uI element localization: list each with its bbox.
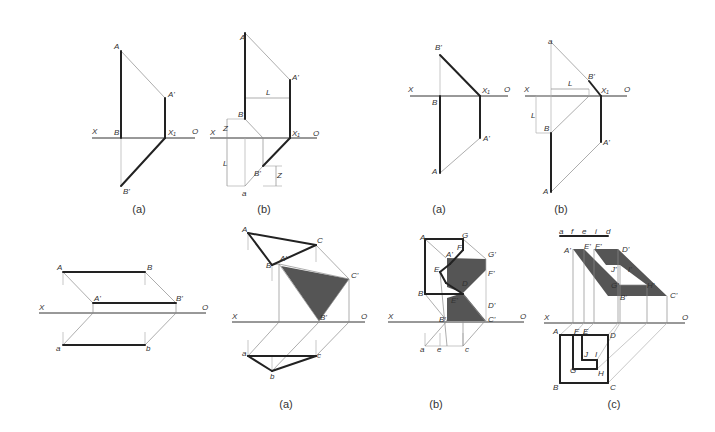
figure-caption: (a) (132, 203, 145, 215)
point-label: L (266, 88, 270, 97)
point-label: C' (351, 271, 359, 280)
figure-fig4a: ACBA'C'XB'Oacb(a) (231, 225, 367, 410)
point-label: A (542, 187, 548, 196)
figure-fig4c: afeidA'E'F'D'J'I'G'H'C'B'XOAFEDJIGHBC(c) (543, 227, 688, 410)
figure-fig1a: AA'XBX₁OB'(a) (91, 42, 198, 215)
projection-line (463, 321, 485, 346)
point-label: X (91, 127, 98, 136)
projection-line (145, 272, 176, 303)
object-edge (121, 138, 165, 186)
point-label: O (361, 312, 367, 321)
figure-caption: (b) (257, 203, 270, 215)
point-label: A' (93, 294, 101, 303)
object-edge (272, 356, 316, 371)
point-label: H (598, 369, 604, 378)
figure-caption: (a) (432, 203, 445, 215)
projection-line (63, 313, 93, 345)
point-label: X₁ (481, 86, 490, 95)
point-label: F' (488, 269, 495, 278)
point-label: G' (611, 281, 619, 290)
projection-line (121, 51, 165, 98)
point-label: X (543, 313, 550, 322)
projection-line (551, 96, 589, 133)
point-label: B' (435, 43, 442, 52)
point-label: L (568, 79, 572, 88)
point-label: G (570, 366, 576, 375)
point-label: a (548, 37, 553, 46)
point-label: O (520, 312, 526, 321)
point-label: X₁ (167, 128, 176, 137)
object-edge (263, 138, 290, 166)
point-label: E' (584, 242, 591, 251)
point-label: D' (488, 301, 496, 310)
point-label: A (113, 42, 119, 51)
point-label: a (420, 345, 425, 354)
point-label: L (223, 159, 227, 168)
point-label: b (146, 344, 151, 353)
point-label: C (317, 236, 323, 245)
point-label: E' (451, 296, 458, 305)
point-label: i (595, 227, 597, 236)
point-label: H' (647, 281, 655, 290)
object-edge (248, 233, 316, 245)
point-label: O (504, 85, 510, 94)
point-label: O (682, 313, 688, 322)
point-label: A (419, 233, 425, 242)
point-label: A (239, 33, 245, 42)
point-label: E (583, 327, 589, 336)
point-label: G (462, 231, 468, 240)
point-label: B' (320, 313, 327, 322)
point-label: X (523, 85, 530, 94)
point-label: C (610, 383, 616, 392)
projection-line (463, 239, 486, 259)
projection-line (63, 272, 93, 303)
point-label: D' (622, 245, 630, 254)
point-label: Z (276, 171, 283, 180)
point-label: A' (563, 246, 571, 255)
point-label: a (242, 349, 247, 358)
point-label: X (209, 128, 216, 137)
point-label: C' (488, 315, 496, 324)
point-label: A' (291, 73, 299, 82)
point-label: G' (488, 250, 496, 259)
figure-caption: (b) (429, 398, 442, 410)
point-label: X₁ (291, 129, 300, 138)
point-label: B (114, 128, 120, 137)
point-label: B (553, 383, 559, 392)
projection-line (248, 322, 279, 356)
projection-line (425, 239, 446, 258)
point-label: A' (445, 250, 453, 259)
point-label: A (241, 225, 247, 234)
point-label: X (407, 85, 414, 94)
point-label: L (531, 111, 535, 120)
point-label: B (432, 98, 438, 107)
point-label: c (317, 351, 321, 360)
projection-line (440, 138, 480, 173)
point-label: I (595, 350, 598, 359)
point-label: f (571, 227, 574, 236)
point-label: a (56, 344, 61, 353)
point-label: O (624, 85, 630, 94)
point-label: B (266, 261, 272, 270)
point-label: O (202, 303, 208, 312)
construction-line-faint (560, 323, 573, 335)
point-label: B (147, 263, 153, 272)
point-label: B (238, 110, 244, 119)
point-label: B' (439, 315, 446, 324)
figure-fig1b: AA'LBXX₁OZLB'Za(b) (209, 33, 319, 215)
point-label: C' (670, 291, 678, 300)
object-edge (440, 55, 480, 96)
point-label: A' (482, 134, 490, 143)
point-label: A (431, 167, 437, 176)
point-label: D (462, 279, 468, 288)
point-label: B' (123, 187, 130, 196)
point-label: A' (279, 254, 287, 263)
diagram-canvas: AA'XBX₁OB'(a)AA'LBXX₁OZLB'Za(b)B'XX₁OBA'… (0, 0, 715, 432)
figure-fig3: ABA'B'XOab (38, 263, 208, 353)
point-label: E (434, 265, 440, 274)
point-label: I' (628, 265, 632, 274)
figure-fig2a: B'XX₁OBA'A(a) (407, 43, 510, 215)
point-label: A (552, 327, 558, 336)
point-label: O (192, 127, 198, 136)
point-label: b (270, 372, 275, 381)
